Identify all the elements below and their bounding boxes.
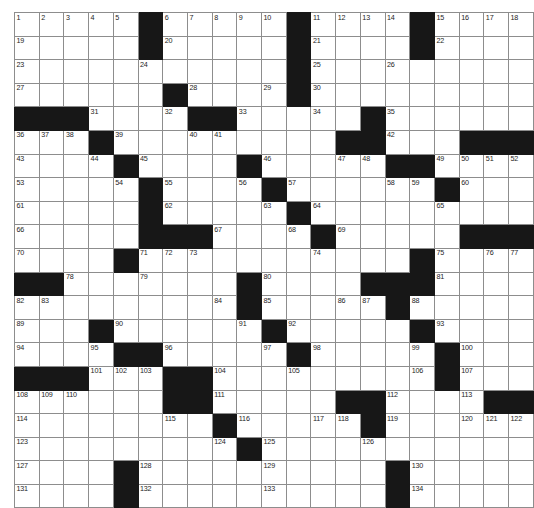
letter-cell[interactable] [336, 272, 361, 296]
letter-cell[interactable] [113, 107, 138, 131]
letter-cell[interactable]: 124 [212, 437, 237, 461]
letter-cell[interactable] [286, 154, 311, 178]
letter-cell[interactable] [39, 414, 64, 438]
letter-cell[interactable]: 46 [262, 154, 287, 178]
letter-cell[interactable] [138, 390, 163, 414]
letter-cell[interactable] [336, 484, 361, 508]
letter-cell[interactable] [39, 36, 64, 60]
letter-cell[interactable]: 97 [262, 343, 287, 367]
letter-cell[interactable] [187, 343, 212, 367]
letter-cell[interactable]: 35 [385, 107, 410, 131]
letter-cell[interactable] [434, 461, 459, 485]
letter-cell[interactable] [237, 60, 262, 84]
letter-cell[interactable] [163, 60, 188, 84]
letter-cell[interactable] [459, 272, 484, 296]
letter-cell[interactable]: 128 [138, 461, 163, 485]
letter-cell[interactable] [187, 437, 212, 461]
letter-cell[interactable]: 79 [138, 272, 163, 296]
letter-cell[interactable]: 109 [39, 390, 64, 414]
letter-cell[interactable] [237, 461, 262, 485]
letter-cell[interactable] [138, 414, 163, 438]
letter-cell[interactable] [385, 366, 410, 390]
letter-cell[interactable]: 93 [434, 319, 459, 343]
letter-cell[interactable] [262, 225, 287, 249]
letter-cell[interactable] [163, 319, 188, 343]
letter-cell[interactable]: 72 [163, 248, 188, 272]
letter-cell[interactable]: 115 [163, 414, 188, 438]
letter-cell[interactable] [187, 414, 212, 438]
letter-cell[interactable] [64, 484, 89, 508]
letter-cell[interactable] [262, 130, 287, 154]
letter-cell[interactable] [509, 178, 534, 202]
letter-cell[interactable] [360, 60, 385, 84]
letter-cell[interactable] [64, 248, 89, 272]
letter-cell[interactable] [434, 484, 459, 508]
letter-cell[interactable] [360, 461, 385, 485]
letter-cell[interactable]: 126 [360, 437, 385, 461]
letter-cell[interactable]: 20 [163, 36, 188, 60]
letter-cell[interactable] [410, 83, 435, 107]
letter-cell[interactable]: 36 [15, 130, 40, 154]
letter-cell[interactable] [336, 437, 361, 461]
letter-cell[interactable] [311, 178, 336, 202]
letter-cell[interactable] [39, 83, 64, 107]
letter-cell[interactable] [89, 248, 114, 272]
letter-cell[interactable] [163, 154, 188, 178]
letter-cell[interactable]: 59 [410, 178, 435, 202]
letter-cell[interactable] [187, 484, 212, 508]
letter-cell[interactable] [484, 36, 509, 60]
letter-cell[interactable] [64, 60, 89, 84]
letter-cell[interactable]: 105 [286, 366, 311, 390]
letter-cell[interactable]: 106 [410, 366, 435, 390]
letter-cell[interactable]: 33 [237, 107, 262, 131]
letter-cell[interactable] [262, 107, 287, 131]
letter-cell[interactable] [163, 437, 188, 461]
letter-cell[interactable] [89, 272, 114, 296]
letter-cell[interactable] [163, 130, 188, 154]
letter-cell[interactable] [360, 248, 385, 272]
letter-cell[interactable] [509, 366, 534, 390]
letter-cell[interactable] [410, 437, 435, 461]
letter-cell[interactable]: 110 [64, 390, 89, 414]
letter-cell[interactable]: 45 [138, 154, 163, 178]
letter-cell[interactable] [187, 154, 212, 178]
letter-cell[interactable] [509, 107, 534, 131]
letter-cell[interactable] [336, 461, 361, 485]
letter-cell[interactable] [89, 60, 114, 84]
letter-cell[interactable] [89, 178, 114, 202]
letter-cell[interactable] [336, 319, 361, 343]
letter-cell[interactable]: 107 [459, 366, 484, 390]
letter-cell[interactable] [459, 484, 484, 508]
letter-cell[interactable] [89, 414, 114, 438]
letter-cell[interactable] [509, 296, 534, 320]
letter-cell[interactable] [434, 390, 459, 414]
letter-cell[interactable] [311, 319, 336, 343]
letter-cell[interactable] [89, 225, 114, 249]
letter-cell[interactable]: 121 [484, 414, 509, 438]
letter-cell[interactable] [187, 296, 212, 320]
letter-cell[interactable]: 16 [459, 13, 484, 37]
letter-cell[interactable] [163, 296, 188, 320]
letter-cell[interactable]: 98 [311, 343, 336, 367]
letter-cell[interactable]: 63 [262, 201, 287, 225]
letter-cell[interactable] [286, 414, 311, 438]
letter-cell[interactable] [459, 296, 484, 320]
letter-cell[interactable] [187, 319, 212, 343]
letter-cell[interactable] [360, 343, 385, 367]
letter-cell[interactable]: 24 [138, 60, 163, 84]
letter-cell[interactable] [385, 83, 410, 107]
letter-cell[interactable] [286, 272, 311, 296]
letter-cell[interactable] [484, 437, 509, 461]
letter-cell[interactable] [138, 130, 163, 154]
letter-cell[interactable] [39, 437, 64, 461]
letter-cell[interactable]: 80 [262, 272, 287, 296]
letter-cell[interactable]: 49 [434, 154, 459, 178]
letter-cell[interactable] [509, 83, 534, 107]
letter-cell[interactable] [311, 461, 336, 485]
letter-cell[interactable]: 13 [360, 13, 385, 37]
letter-cell[interactable] [237, 36, 262, 60]
letter-cell[interactable]: 32 [163, 107, 188, 131]
letter-cell[interactable] [286, 248, 311, 272]
letter-cell[interactable]: 9 [237, 13, 262, 37]
letter-cell[interactable]: 2 [39, 13, 64, 37]
